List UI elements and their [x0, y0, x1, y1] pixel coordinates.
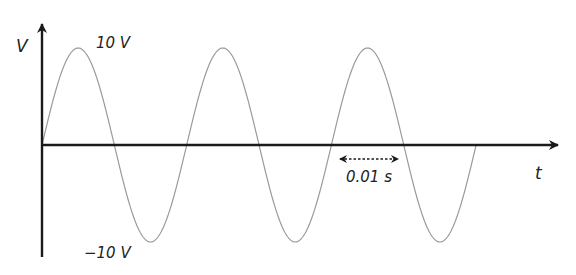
sine-wave-diagram [0, 0, 576, 275]
period-label: 0.01 s [346, 170, 392, 185]
trough-voltage-label: −10 V [84, 246, 131, 261]
y-axis-label: V [16, 38, 28, 55]
x-axis-label: t [535, 165, 542, 182]
peak-voltage-label: 10 V [96, 36, 130, 51]
